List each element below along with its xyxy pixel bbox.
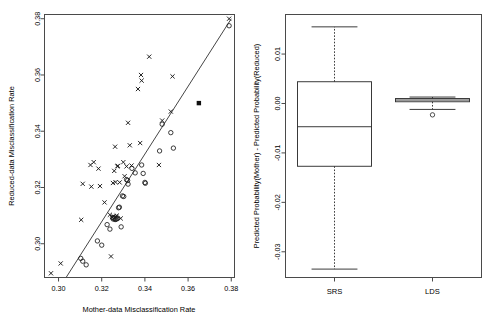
scatter-marker-x [113,145,117,149]
scatter-marker-x [81,182,85,186]
scatter-marker-circle [171,146,175,150]
boxplot-frame [286,15,482,278]
scatter-y-tick-label: 0.30 [33,237,42,251]
boxplot-panel: 0.010.00-0.01-0.02-0.03 SRSLDS Predicted… [247,0,494,325]
scatter-marker-circle [119,225,123,229]
scatter-marker-circle [108,227,112,231]
boxplot-svg: 0.010.00-0.01-0.02-0.03 SRSLDS Predicted… [247,0,494,325]
scatter-marker-circle [169,130,173,134]
scatter-x-tick-label: 0.36 [181,284,195,293]
scatter-marker-x [102,200,106,204]
boxplot-outlier-point [430,113,434,117]
scatter-x-axis: 0.300.320.340.360.38 [52,278,239,293]
scatter-marker-x [79,218,83,222]
scatter-x-tick-label: 0.34 [138,284,152,293]
scatter-marker-circle [100,243,104,247]
scatter-marker-circle [95,239,99,243]
scatter-panel: 0.300.320.340.360.38 0.300.320.340.360.3… [0,0,247,325]
scatter-y-axis: 0.300.320.340.360.38 [33,12,44,251]
scatter-marker-x [59,261,63,265]
scatter-y-tick-label: 0.34 [33,124,42,138]
scatter-plot-svg: 0.300.320.340.360.38 0.300.320.340.360.3… [0,0,247,325]
scatter-plot-frame [45,15,235,278]
scatter-y-tick-label: 0.38 [33,12,42,26]
scatter-marker-x [140,79,144,83]
scatter-marker-x [121,160,125,164]
boxplot-category-labels: SRSLDS [327,278,440,296]
scatter-marker-circle [141,171,145,175]
scatter-x-tick-label: 0.32 [95,284,109,293]
scatter-marker-x [147,55,151,59]
scatter-x-axis-title: Mother-data Misclassification Rate [83,305,196,314]
scatter-marker-x [170,74,174,78]
scatter-data-points [49,17,231,276]
boxplot-box-srs [298,27,372,269]
scatter-marker-x [157,163,161,167]
boxplot-boxes [298,27,470,269]
scatter-marker-x [96,167,100,171]
scatter-marker-x [128,143,132,147]
scatter-marker-circle [84,263,88,267]
boxplot-box-lds [396,97,470,117]
scatter-marker-x [49,271,53,275]
boxplot-category-label: SRS [327,287,343,296]
scatter-y-tick-label: 0.36 [33,68,42,82]
boxplot-y-tick-label: 0.01 [273,47,282,61]
boxplot-y-tick-label: 0.00 [273,96,282,110]
scatter-marker-circle [133,171,137,175]
scatter-marker-circle [139,163,143,167]
scatter-marker-x [139,73,143,77]
scatter-marker-x [92,160,96,164]
scatter-marker-x [138,141,142,145]
scatter-marker-x [98,184,102,188]
scatter-marker-x [126,121,130,125]
scatter-marker-x [124,164,128,168]
boxplot-y-tick-label: -0.03 [273,244,282,260]
scatter-x-tick-label: 0.38 [224,284,238,293]
scatter-marker-circle [105,222,109,226]
scatter-y-axis-title: Reduced-data Misclassification Rate [7,86,16,206]
scatter-marker-x [118,180,122,184]
boxplot-y-tick-label: -0.02 [273,194,282,210]
statistical-figure: 0.300.320.340.360.38 0.300.320.340.360.3… [0,0,494,325]
scatter-y-tick-label: 0.32 [33,180,42,194]
boxplot-y-axis: 0.010.00-0.01-0.02-0.03 [273,47,285,260]
scatter-marker-circle [130,166,134,170]
scatter-marker-x [112,169,116,173]
scatter-marker-circle [157,149,161,153]
scatter-x-tick-label: 0.30 [52,284,66,293]
boxplot-y-axis-title: Predicted Probability(Mother) - Predicte… [252,44,261,249]
scatter-marker-x [109,254,113,258]
boxplot-y-tick-label: -0.01 [273,145,282,161]
scatter-marker-square [197,101,201,105]
scatter-marker-x [89,185,93,189]
scatter-marker-x [227,17,231,21]
scatter-marker-x [136,87,140,91]
scatter-marker-circle [227,24,231,28]
boxplot-category-label: LDS [425,287,440,296]
